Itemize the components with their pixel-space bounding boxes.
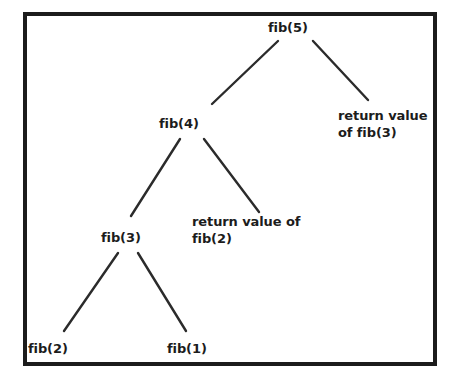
tree-edge-layer (0, 0, 460, 380)
diagram-canvas: fib(5)fib(4)return value of fib(3)fib(3)… (0, 0, 460, 380)
tree-edge-fib4-fib3 (131, 139, 180, 216)
tree-edge-fib3-fib2 (64, 253, 118, 331)
tree-node-fib2: fib(2) (28, 340, 68, 357)
tree-node-fib3: fib(3) (101, 229, 141, 246)
tree-node-fib4: fib(4) (159, 115, 199, 132)
tree-edge-fib3-fib1 (138, 253, 186, 331)
tree-edge-fib5-retfib3 (313, 41, 368, 100)
tree-edge-fib4-retfib2 (204, 139, 259, 212)
tree-node-ret_fib3: return value of fib(3) (338, 107, 427, 141)
tree-edge-fib5-fib4 (212, 41, 278, 104)
tree-node-ret_fib2: return value of fib(2) (192, 213, 300, 247)
tree-edges (64, 41, 368, 331)
tree-node-fib5: fib(5) (268, 19, 308, 36)
tree-node-fib1: fib(1) (167, 340, 207, 357)
